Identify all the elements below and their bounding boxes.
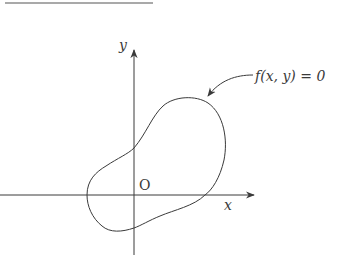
y-axis-label: y xyxy=(118,37,128,53)
label-pointer-arrow xyxy=(208,75,253,96)
origin-label: O xyxy=(139,177,150,193)
equation-label: f(x, y) = 0 xyxy=(254,68,325,84)
implicit-curve-diagram: y x O f(x, y) = 0 xyxy=(0,0,339,255)
x-axis-label: x xyxy=(224,197,232,213)
closed-curve xyxy=(87,98,225,231)
